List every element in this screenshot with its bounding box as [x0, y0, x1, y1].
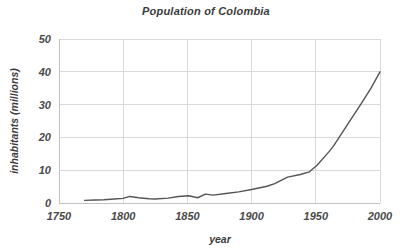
x-gridlines: [59, 39, 380, 203]
y-tick-label: 40: [38, 66, 52, 78]
y-tick-labels: 01020304050: [38, 33, 52, 209]
x-tick-label: 1850: [175, 210, 200, 222]
x-tick-label: 1800: [111, 210, 136, 222]
x-tick-label: 1950: [304, 210, 329, 222]
x-axis-title: year: [208, 233, 232, 245]
y-tick-label: 0: [45, 197, 52, 209]
x-tick-label: 2000: [367, 210, 393, 222]
x-tick-label: 1750: [47, 210, 72, 222]
y-axis-title: inhabitants (millions): [8, 68, 20, 174]
y-tick-label: 10: [39, 164, 52, 176]
y-gridlines: [59, 39, 380, 203]
y-tick-label: 30: [39, 99, 52, 111]
chart-container: Population of Colombia 01020304050 17501…: [0, 0, 412, 252]
x-tick-labels: 175018001850190019502000: [47, 210, 393, 222]
y-tick-label: 20: [38, 131, 52, 143]
x-tick-label: 1900: [239, 210, 264, 222]
line-chart-plot: 01020304050 175018001850190019502000 yea…: [0, 0, 412, 252]
y-tick-label: 50: [39, 33, 52, 45]
data-series-line: [85, 72, 380, 201]
